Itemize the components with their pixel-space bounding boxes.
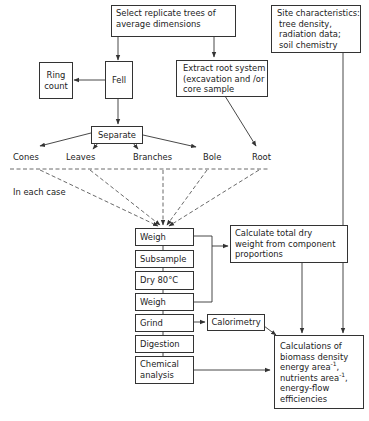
dry-label: Dry 80°C — [140, 275, 178, 285]
component-bole: Bole — [203, 152, 221, 162]
in-each-case-annotation: In each case — [13, 187, 66, 197]
final-calculations-box: Calculations of biomass density energy a… — [274, 335, 364, 409]
extract-line3: core sample — [183, 84, 263, 95]
select-trees-line2: average dimensions — [116, 19, 231, 30]
calc-line2: weight from component — [235, 239, 343, 250]
component-leaves: Leaves — [66, 152, 95, 162]
extract-line2: (excavation and /or — [183, 74, 263, 85]
site-line4: soil chemistry — [277, 40, 356, 51]
calculate-dry-weight-box: Calculate total dry weight from componen… — [230, 225, 348, 263]
grind-label: Grind — [140, 318, 163, 328]
site-line2: tree density, — [277, 19, 356, 30]
select-trees-box: Select replicate trees of average dimens… — [111, 5, 236, 37]
separate-label: Separate — [98, 130, 136, 141]
site-line1: Site characteristics: — [277, 8, 356, 19]
site-line3: radiation data; — [277, 29, 356, 40]
calorimetry-box: Calorimetry — [207, 314, 265, 331]
select-trees-line1: Select replicate trees of — [116, 8, 231, 19]
digestion-box: Digestion — [135, 335, 194, 353]
final-line1: Calculations of — [280, 341, 358, 352]
component-root: Root — [252, 152, 271, 162]
grind-box: Grind — [135, 314, 194, 332]
final-line6: efficiencies — [280, 394, 358, 405]
final-line5: energy-flow — [280, 383, 358, 394]
weigh-box-1: Weigh — [135, 228, 194, 246]
separate-box: Separate — [91, 126, 143, 144]
component-branches: Branches — [133, 152, 172, 162]
calc-line1: Calculate total dry — [235, 228, 343, 239]
weigh-label-2: Weigh — [140, 297, 166, 307]
subsample-box: Subsample — [135, 250, 194, 268]
component-cones: Cones — [13, 152, 39, 162]
fell-label: Fell — [112, 75, 126, 86]
chemical-line2: analysis — [140, 370, 189, 381]
ring-count-line1: Ring — [47, 70, 66, 81]
extract-root-box: Extract root system (excavation and /or … — [176, 60, 268, 97]
chemical-line1: Chemical — [140, 359, 189, 370]
ring-count-box: Ring count — [39, 62, 73, 99]
final-line4: nutrients area-1, — [280, 373, 358, 384]
site-characteristics-box: Site characteristics: tree density, radi… — [271, 5, 361, 53]
chemical-analysis-box: Chemical analysis — [135, 356, 194, 384]
final-line2: biomass density — [280, 352, 358, 363]
digestion-label: Digestion — [140, 339, 180, 349]
subsample-label: Subsample — [140, 254, 186, 264]
fell-box: Fell — [105, 61, 133, 99]
calorimetry-label: Calorimetry — [211, 317, 260, 328]
calc-line3: proportions — [235, 249, 343, 260]
extract-line1: Extract root system — [183, 63, 263, 74]
final-line3: energy area-1, — [280, 362, 358, 373]
dry-box: Dry 80°C — [135, 271, 194, 290]
weigh-label-1: Weigh — [140, 232, 166, 242]
ring-count-line2: count — [44, 81, 68, 92]
weigh-box-2: Weigh — [135, 293, 194, 311]
